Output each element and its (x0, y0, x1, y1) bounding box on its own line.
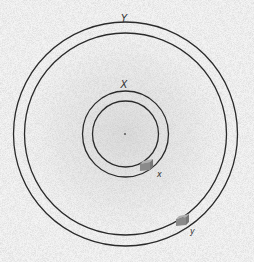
orbit-diagram: Y X x y (0, 0, 254, 262)
orbit-Y-label: Y (121, 13, 128, 24)
object-y-label: y (189, 227, 195, 236)
center-point (124, 133, 126, 135)
diagram-canvas: Y X x y (0, 0, 254, 262)
noise-texture (0, 0, 254, 262)
orbit-X-label: X (120, 79, 129, 90)
object-x-label: x (156, 170, 162, 179)
